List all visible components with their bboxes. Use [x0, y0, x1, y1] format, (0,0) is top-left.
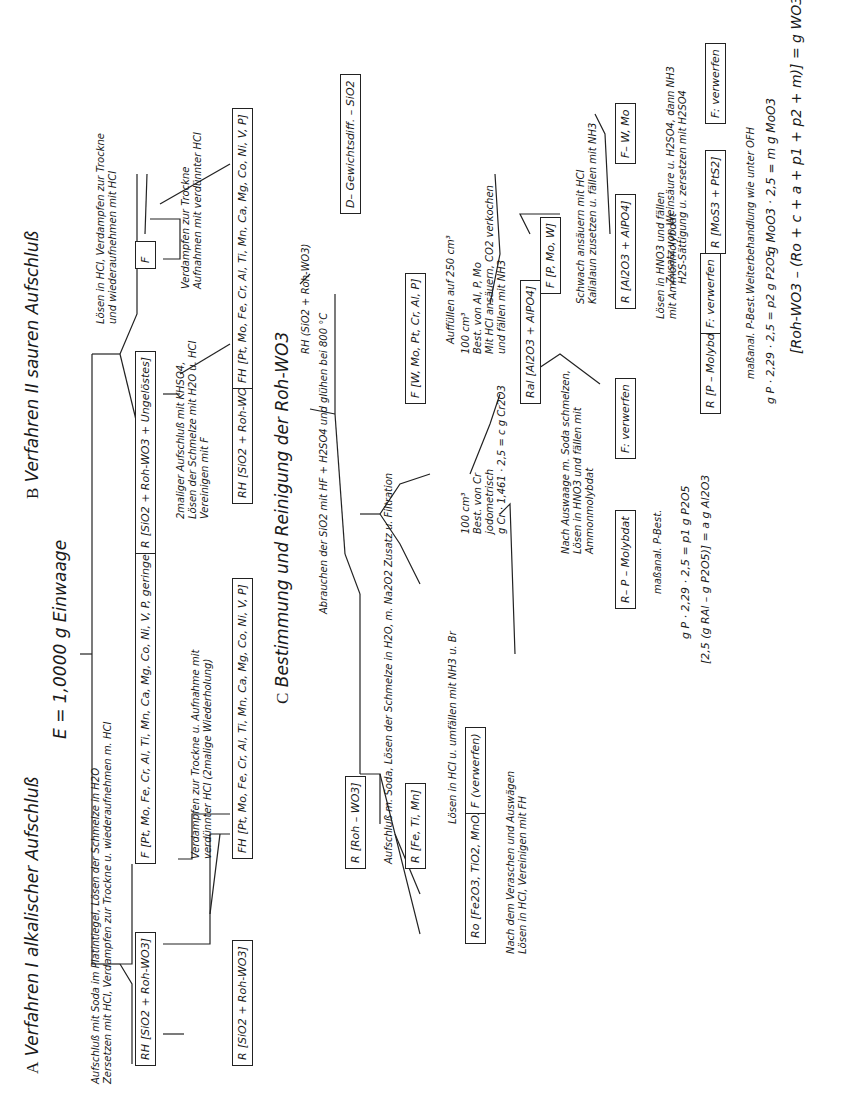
box-label: Ro [469, 924, 482, 938]
section-c-title: C Bestimmung und Reinigung der Roh-WO3 [272, 332, 293, 704]
flowchart-canvas: E = 1,0000 g Einwaage A Verfahren I alka… [0, 0, 853, 1114]
section-a-box-r: R[SiO2 + Roh-WO3] [232, 940, 253, 1066]
section-c-letter: C [273, 693, 292, 704]
section-c-calc6: g MoO3 · 2,5 = m g MoO3 [765, 98, 777, 254]
box-label: R [709, 240, 722, 248]
box-label: R [139, 540, 152, 548]
sample-weight-title: E = 1,0000 g Einwaage [50, 540, 70, 739]
section-c-calc3: [2,5 (g RAl – g P2O5)] = a g Al2O3 [700, 475, 712, 664]
section-c-box-p-molybdat-1: R– P – Molybdat [615, 510, 636, 609]
box-label: R [236, 1052, 249, 1060]
box-content: [MoS3 + PtS2] [709, 156, 722, 236]
section-c-calc2: g P · 2,29 · 2,5 = p1 g P2O5 [680, 485, 692, 639]
section-a-title-text: Verfahren I alkalischer Aufschluß [22, 777, 42, 1057]
section-b-step3: Verdampfen zur Trockne Aufnahmen mit ver… [180, 132, 204, 289]
box-label: F [469, 802, 482, 808]
box-label: R [409, 855, 422, 863]
box-label: RH [139, 1044, 152, 1060]
box-content: : verwerfen [704, 259, 717, 322]
section-a-box-rh: RH[SiO2 + Roh-WO3] [135, 932, 156, 1066]
section-b-step1: Lösen in HCl, Verdampfen zur Trockne und… [95, 133, 119, 324]
section-c-auffuellen: Auffüllen auf 250 cm³ [445, 235, 457, 344]
box-label: R [619, 595, 632, 603]
section-c-box-f-pmow: F[P, Mo, W] [540, 217, 561, 294]
box-content: – Gewichtsdiff. – SiO2 [344, 80, 357, 199]
section-c-box-ro: Ro[Fe2O3, TiO2, MnO2] [465, 798, 486, 944]
box-label: F [709, 112, 722, 118]
section-c-box-f-w-mo-2: F– W, Mo [615, 103, 636, 164]
section-b-box-rh: RH[SiO2 + Roh-WO3] [232, 370, 253, 504]
section-c-step8: Zusatz von Weinsäure u. H2SO4, dann NH3 … [665, 66, 689, 284]
section-a-box-fh: FH[Pt, Mo, Fe, Cr, Al, Ti, Mn, Ca, Mg, C… [232, 578, 253, 859]
box-content: [SiO2 + Roh-WO3] [236, 946, 249, 1048]
box-label: R [349, 855, 362, 863]
section-b-box-fh: FH[Pt, Mo, Fe, Cr, Al, Ti, Mn, Ca, Mg, C… [232, 108, 253, 389]
box-content: [Fe, Ti, Mn] [409, 789, 422, 851]
box-label: R [619, 295, 632, 303]
box-label: F [139, 257, 152, 263]
box-label: F [619, 152, 632, 158]
section-a-step1: Aufschluß mit Soda im Platintiegel, Löse… [90, 722, 114, 1084]
box-content: [Al2O3 + AlPO4] [619, 200, 632, 291]
box-label: F [619, 447, 632, 453]
box-content: [W, Mo, Pt, Cr, Al, P] [409, 279, 422, 388]
box-content: : verwerfen [619, 384, 632, 447]
section-a-letter: A [23, 1062, 42, 1074]
section-c-aliquot-al-p-mo: 100 cm³ Best. von Al, P, Mo Mit HCl ansä… [460, 185, 508, 354]
section-c-step5: Nach Auswaage m. Soda schmelzen, Lösen i… [560, 370, 596, 554]
section-c-calc4: maßanal. P-Best. [745, 295, 757, 379]
box-label: F [704, 322, 717, 328]
box-label: F [409, 392, 422, 398]
section-c-step4: Nach dem Veraschen und Auswägen Lösen in… [505, 771, 529, 954]
section-c-calc1: maßanal. P-Best. [652, 510, 664, 594]
sample-weight-text: E = 1,0000 g Einwaage [50, 540, 70, 739]
section-c-step9: Weiterbehandlung wie unter OFH [745, 127, 757, 294]
section-c-title-text: Bestimmung und Reinigung der Roh-WO3 [272, 332, 292, 687]
section-c-box-f-w-mo: F[W, Mo, Pt, Cr, Al, P] [405, 273, 426, 404]
box-content: [SiO2 + Roh-WO3] [139, 938, 152, 1040]
section-c-calc5: g P · 2,29 · 2,5 = p2 g P2O5 [765, 250, 777, 404]
section-c-box-f-verwerfen-3: F: verwerfen [700, 253, 721, 334]
section-c-step3: Lösen in HCl u. umfällen mit NH3 u. Br [447, 631, 459, 824]
box-label: Ral [524, 381, 537, 398]
section-b-step2: 2maliger Aufschluß mit KHSO4, Lösen der … [175, 341, 211, 519]
box-content: – W, Mo [619, 109, 632, 151]
box-content: [P, Mo, W] [544, 223, 557, 278]
box-content: [SiO2 + Roh-WO3] [236, 376, 249, 478]
section-b-box-f: F [135, 241, 156, 269]
box-label: R [704, 400, 717, 408]
box-content: [Pt, Mo, Fe, Cr, Al, Ti, Mn, Ca, Mg, Co,… [236, 114, 249, 364]
box-content: [SiO2 + Roh-WO3 + Ungelöstes] [139, 357, 152, 536]
section-c-rh-note: RH (SiO2 + Roh-WO3) [300, 243, 312, 354]
section-c-box-ral: Ral[Al2O3 + AlPO4] [520, 280, 541, 404]
section-c-box-f-verwerfen: F(verwerfen) [465, 727, 486, 814]
section-c-box-roh-wo3: R[Roh – WO3] [345, 776, 366, 869]
section-b-box-r: R[SiO2 + Roh-WO3 + Ungelöstes] [135, 351, 156, 554]
box-content: [Pt, Mo, Fe, Cr, Al, Ti, Mn, Ca, Mg, Co,… [236, 584, 249, 834]
section-c-box-fe-ti-mn: R[Fe, Ti, Mn] [405, 783, 426, 869]
section-b-title-text: Verfahren II sauren Aufschluß [22, 231, 42, 483]
section-c-step2: Aufschluß m. Soda, Lösen der Schmelze in… [383, 473, 395, 864]
section-c-box-d: D– Gewichtsdiff. – SiO2 [340, 74, 361, 214]
section-c-box-al-alpo: R[Al2O3 + AlPO4] [615, 194, 636, 309]
section-c-aliquot-cr: 100 cm³ Best. von Cr jodometrisch g Cr ·… [460, 385, 508, 534]
section-c-box-f-verwerfen-4: F: verwerfen [705, 43, 726, 124]
box-label: F [139, 852, 152, 858]
box-label: FH [236, 838, 249, 853]
section-c-step1: Abrauchen der SiO2 mit HF + H2SO4 und gl… [318, 313, 330, 614]
box-content: [Al2O3 + AlPO4] [524, 286, 537, 377]
section-a-title: A Verfahren I alkalischer Aufschluß [22, 777, 43, 1074]
box-content: [Roh – WO3] [349, 782, 362, 851]
box-label: F [544, 282, 557, 288]
box-content: [Fe2O3, TiO2, MnO2] [469, 804, 482, 920]
section-c-box-mos: R[MoS3 + PtS2] [705, 150, 726, 254]
section-b-letter: B [23, 488, 42, 499]
box-content: – P – Molybdat [619, 516, 632, 595]
box-label: D [344, 200, 357, 208]
box-label: RH [236, 482, 249, 498]
box-label: FH [236, 368, 249, 383]
box-content: (verwerfen) [469, 733, 482, 797]
section-a-step2: Verdampfen zur Trockne u. Aufnahme mit v… [190, 650, 214, 859]
section-c-final-result: [Roh-WO3 – (Ro + c + a + p1 + p2 + m)] =… [790, 0, 802, 354]
section-c-step6: Schwach ansäuern mit HCl KaliaIaun zuset… [575, 123, 599, 304]
